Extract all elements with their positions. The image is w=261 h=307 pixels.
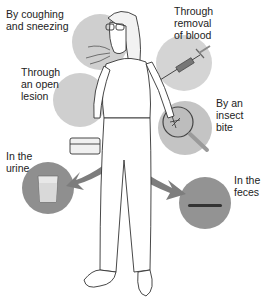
stool-icon: [188, 204, 222, 207]
label-lesion: Through an open lesion: [21, 66, 60, 102]
label-cough: By coughing and sneezing: [6, 8, 68, 32]
feces-circle: [179, 177, 231, 229]
label-feces: In the feces: [234, 174, 260, 198]
illustration: [0, 0, 261, 307]
label-insect: By an insect bite: [216, 97, 243, 133]
label-blood: Through removal of blood: [174, 5, 213, 41]
glass-icon: [38, 176, 58, 202]
transmission-diagram: By coughing and sneezing Through removal…: [0, 0, 261, 307]
label-urine: In the urine: [6, 150, 32, 174]
